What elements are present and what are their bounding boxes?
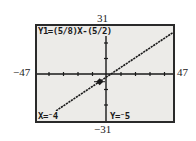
equation-label: Y1=(5/8)X-(5/2) [38,26,112,36]
xmax-label: 47 [177,67,188,78]
trace-y-value: Y=⁻5 [110,111,130,121]
graph-canvas [37,26,173,121]
calculator-graph-screen: Y1=(5/8)X-(5/2) X=⁻4 Y=⁻5 [35,24,175,123]
xmin-label: −47 [13,67,30,78]
ymin-label: −31 [94,124,111,135]
ymax-label: 31 [97,13,108,24]
trace-cursor-icon [94,78,105,85]
function-plot-line [56,33,173,111]
trace-x-value: X=⁻4 [38,111,58,121]
